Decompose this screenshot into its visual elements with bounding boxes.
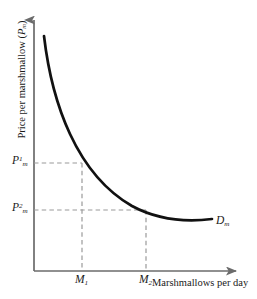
price-1-symbol: P	[12, 154, 19, 166]
y-axis-title-suffix: )	[16, 20, 27, 24]
quantity-1-symbol: M	[75, 273, 85, 285]
quantity-2-symbol: M	[139, 273, 149, 285]
x-tick-label-quantity-1: M1	[75, 274, 88, 286]
x-axis-title: Marshmallows per day	[152, 277, 248, 288]
price-2-symbol: P	[12, 201, 19, 213]
demand-curve-figure: Price per marshmallow (Pm) Marshmallows …	[0, 0, 257, 299]
demand-curve-label: Dm	[216, 215, 229, 227]
price-2-subscript: m	[23, 207, 28, 215]
y-tick-label-price-1: P1m	[12, 155, 28, 167]
demand-curve-subscript: m	[224, 220, 229, 228]
x-tick-label-quantity-2: M2	[139, 274, 152, 286]
y-tick-label-price-2: P2m	[12, 202, 28, 214]
y-axis-title-text: Price per marshmallow (	[16, 35, 27, 139]
y-axis-title-subscript: m	[20, 24, 27, 29]
quantity-1-subscript: 1	[85, 279, 89, 287]
quantity-2-subscript: 2	[149, 279, 153, 287]
y-axis-title-symbol: P	[16, 29, 27, 35]
demand-curve-path	[44, 36, 212, 220]
price-1-subscript: m	[23, 160, 28, 168]
y-axis-title: Price per marshmallow (Pm)	[16, 18, 27, 142]
plot-canvas	[0, 0, 257, 299]
